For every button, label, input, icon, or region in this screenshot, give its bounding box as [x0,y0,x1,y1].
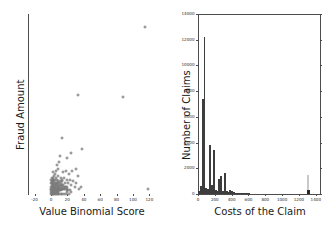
histogram-x-tick-label: 1200 [294,198,304,202]
histogram-x-axis-title: Costs of the Claim [214,207,305,217]
scatter-point [68,178,71,181]
scatter-point [73,185,76,188]
scatter-x-axis-title: Value Binomial Score [39,207,144,217]
histogram-x-tick-label: 1000 [277,198,287,202]
scatter-point [59,182,62,185]
histogram-y-tick-label: 12000 [168,38,195,42]
histogram-y-tick-mark-right [320,40,322,41]
histogram-plot-area [198,14,320,194]
histogram-y-tick-mark-right [320,14,322,15]
scatter-point [79,185,82,188]
histogram-y-tick-mark-right [320,65,322,66]
scatter-point [69,184,72,187]
scatter-y-axis-title: Fraud Amount [16,80,26,150]
histogram-top-spine [198,14,321,15]
histogram-y-tick-mark [196,14,198,15]
scatter-point [77,175,80,178]
histogram-y-axis-spine [198,14,199,195]
scatter-point [74,167,77,170]
histogram-y-tick-mark [196,40,198,41]
scatter-x-tick-label: 40 [81,198,86,202]
histogram-y-tick-mark-right [320,91,322,92]
scatter-x-tick-label: 100 [129,198,137,202]
histogram-y-tick-label: 2000 [168,166,195,170]
scatter-y-axis-spine [28,14,29,195]
histogram-y-tick-mark-right [320,143,322,144]
histogram-y-tick-mark [196,91,198,92]
scatter-point [60,137,63,140]
scatter-point [50,182,53,185]
histogram-bar [204,37,206,194]
scatter-x-tick-label: 120 [146,198,154,202]
scatter-point [70,151,73,154]
histogram-y-tick-mark-right [320,168,322,169]
scatter-point [66,157,69,160]
scatter-plot-area [28,14,156,194]
histogram-x-tick-label: 400 [228,198,236,202]
scatter-point [75,182,78,185]
histogram-x-tick-label: 600 [245,198,253,202]
scatter-x-tick-label: 80 [114,198,119,202]
scatter-point [68,173,71,176]
scatter-point [144,25,147,28]
scatter-x-tick-label: 20 [65,198,70,202]
histogram-x-tick-label: 0 [197,198,200,202]
histogram-bar [213,150,215,194]
scatter-x-tick-label: -20 [31,198,38,202]
scatter-point [60,178,63,181]
histogram-y-tick-mark-right [320,117,322,118]
scatter-point [122,95,125,98]
histogram-y-tick-label: 0 [168,192,195,196]
scatter-point [81,148,84,151]
figure-canvas: -20020406080100120 Value Binomial Score … [0,0,336,232]
histogram-x-tick-label: 200 [211,198,219,202]
histogram-outlier-marker [307,190,310,194]
histogram-y-tick-mark [196,65,198,66]
scatter-point [51,178,54,181]
histogram-y-tick-mark [196,168,198,169]
scatter-x-tick-label: 0 [50,198,53,202]
scatter-x-tick-label: 60 [98,198,103,202]
histogram-x-tick-label: 1400 [311,198,321,202]
scatter-point [62,171,65,174]
scatter-panel: -20020406080100120 Value Binomial Score … [0,0,168,232]
histogram-y-tick-label: 10000 [168,63,195,67]
scatter-point [77,94,80,97]
scatter-point [71,169,74,172]
scatter-point [68,189,71,192]
scatter-point [55,164,58,167]
histogram-panel: 0200400600800100012001400 02000400060008… [168,0,336,232]
histogram-y-tick-mark [196,143,198,144]
histogram-y-tick-mark-right [320,194,322,195]
scatter-point [59,155,62,158]
scatter-point [52,171,55,174]
histogram-y-tick-mark [196,117,198,118]
histogram-y-axis-title: Number of Claims [182,70,192,160]
scatter-point [58,160,61,163]
histogram-bar [248,193,250,194]
histogram-x-tick-label: 800 [261,198,269,202]
histogram-y-tick-mark [196,194,198,195]
histogram-y-tick-label: 14000 [168,12,195,16]
scatter-point [146,187,149,190]
histogram-x-axis-spine [198,194,321,195]
